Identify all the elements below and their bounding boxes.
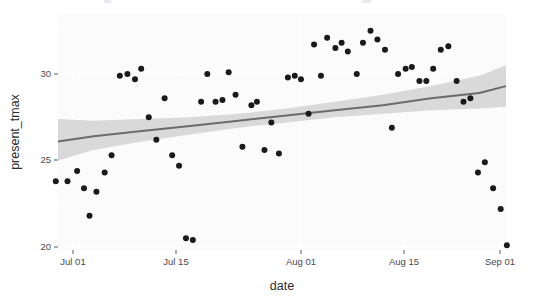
data-point bbox=[445, 43, 451, 49]
data-point bbox=[454, 78, 460, 84]
data-point bbox=[64, 178, 70, 184]
chart-root: Jul 01Jul 15Aug 01Aug 15Sep 01 302520 da… bbox=[0, 0, 533, 296]
data-point bbox=[306, 111, 312, 117]
data-point bbox=[102, 170, 108, 176]
data-point bbox=[261, 147, 267, 153]
data-point bbox=[93, 189, 99, 195]
data-point bbox=[395, 71, 401, 77]
data-point bbox=[475, 170, 481, 176]
data-point bbox=[292, 73, 298, 79]
y-tick-label: 20 bbox=[40, 241, 51, 252]
data-point bbox=[198, 99, 204, 105]
data-point bbox=[345, 49, 351, 55]
data-point bbox=[389, 125, 395, 131]
data-point bbox=[360, 40, 366, 46]
data-point bbox=[276, 151, 282, 157]
top-text-sliver bbox=[104, 0, 111, 3]
data-point bbox=[482, 159, 488, 165]
data-point bbox=[403, 66, 409, 72]
data-point bbox=[298, 76, 304, 82]
data-point bbox=[368, 28, 374, 34]
data-point bbox=[416, 78, 422, 84]
data-point bbox=[311, 42, 317, 48]
data-point bbox=[461, 99, 467, 105]
data-point bbox=[248, 102, 254, 108]
data-point bbox=[87, 213, 93, 219]
data-point bbox=[324, 35, 330, 41]
data-point bbox=[169, 152, 175, 158]
data-point bbox=[430, 66, 436, 72]
data-point bbox=[124, 71, 130, 77]
x-axis-title: date bbox=[270, 279, 294, 293]
x-tick-label: Aug 01 bbox=[286, 256, 316, 267]
x-tick-label: Jul 15 bbox=[163, 256, 188, 267]
y-axis-title: present_tmax bbox=[8, 93, 22, 169]
data-point bbox=[332, 45, 338, 51]
data-point bbox=[233, 92, 239, 98]
data-point bbox=[138, 66, 144, 72]
data-point bbox=[318, 73, 324, 79]
data-point bbox=[162, 95, 168, 101]
data-point bbox=[239, 144, 245, 150]
data-point bbox=[226, 69, 232, 75]
x-tick-label: Aug 15 bbox=[389, 256, 419, 267]
data-point bbox=[339, 40, 345, 46]
data-point bbox=[382, 47, 388, 53]
data-point bbox=[438, 47, 444, 53]
data-point bbox=[213, 99, 219, 105]
data-point bbox=[354, 71, 360, 77]
data-point bbox=[498, 206, 504, 212]
y-tick-label: 25 bbox=[40, 154, 51, 165]
data-point bbox=[504, 242, 510, 248]
x-tick-label: Sep 01 bbox=[485, 256, 515, 267]
data-point bbox=[53, 178, 59, 184]
data-point bbox=[146, 114, 152, 120]
data-point bbox=[132, 76, 138, 82]
data-point bbox=[490, 185, 496, 191]
data-point bbox=[254, 99, 260, 105]
data-point bbox=[374, 36, 380, 42]
data-point bbox=[81, 185, 87, 191]
data-point bbox=[423, 78, 429, 84]
data-point bbox=[117, 73, 123, 79]
data-point bbox=[153, 137, 159, 143]
data-point bbox=[176, 163, 182, 169]
x-tick-label: Jul 01 bbox=[60, 256, 85, 267]
data-point bbox=[183, 235, 189, 241]
data-point bbox=[268, 119, 274, 125]
data-point bbox=[204, 71, 210, 77]
y-tick-label: 30 bbox=[40, 68, 51, 79]
data-point bbox=[109, 152, 115, 158]
data-point bbox=[409, 64, 415, 70]
data-point bbox=[219, 97, 225, 103]
top-text-sliver bbox=[362, 0, 371, 3]
data-point bbox=[74, 168, 80, 174]
data-point bbox=[190, 237, 196, 243]
scatter-plot-figure: Jul 01Jul 15Aug 01Aug 15Sep 01 302520 da… bbox=[0, 0, 533, 296]
data-point bbox=[467, 95, 473, 101]
data-point bbox=[285, 74, 291, 80]
